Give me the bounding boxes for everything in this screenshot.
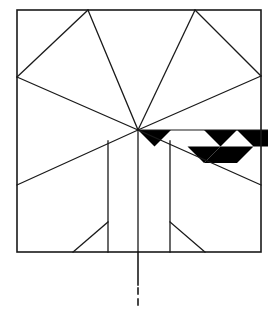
- geometric-drawing: [0, 0, 268, 316]
- figure-canvas: [0, 0, 268, 316]
